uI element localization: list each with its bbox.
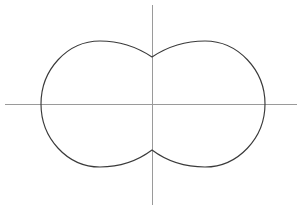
plot-canvas [0,0,303,212]
plot-figure [0,0,303,212]
